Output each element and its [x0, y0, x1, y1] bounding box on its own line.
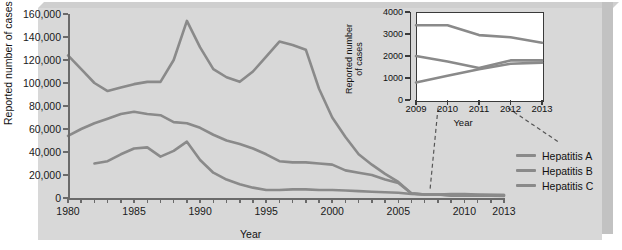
- legend-item-hepatitis-a[interactable]: Hepatitis A: [516, 148, 593, 163]
- inset-y-tick: [405, 33, 410, 34]
- figure-root: Reported number of cases Year 020,00040,…: [0, 0, 622, 250]
- legend-label-hepatitis-b: Hepatitis B: [542, 165, 593, 177]
- inset-x-tick-label: 2012: [500, 104, 521, 114]
- legend-item-hepatitis-b[interactable]: Hepatitis B: [516, 163, 593, 178]
- inset-y-tick: [405, 11, 410, 12]
- legend: Hepatitis A Hepatitis B Hepatitis C: [516, 148, 593, 193]
- legend-swatch-hepatitis-b: [516, 169, 536, 172]
- inset-y-tick-label: 1000: [372, 74, 403, 83]
- inset-y-tick: [405, 55, 410, 56]
- legend-item-hepatitis-c[interactable]: Hepatitis C: [516, 178, 593, 193]
- inset-x-tick-label: 2010: [437, 104, 458, 114]
- legend-label-hepatitis-a: Hepatitis A: [542, 150, 592, 162]
- inset-y-tick-label: 2000: [372, 52, 403, 61]
- inset-y-tick: [405, 77, 410, 78]
- inset-x-tick-label: 2009: [405, 104, 426, 114]
- inset-y-tick-label: 4000: [372, 8, 403, 17]
- inset-y-tick-label: 0: [372, 96, 403, 105]
- inset-x-tick-label: 2011: [469, 104, 489, 114]
- inset-x-tick-label: 2013: [531, 104, 552, 114]
- inset-connector-lines: [0, 0, 622, 250]
- legend-swatch-hepatitis-c: [516, 184, 536, 187]
- inset-y-tick: [405, 99, 410, 100]
- inset-y-tick-label: 3000: [372, 30, 403, 39]
- legend-swatch-hepatitis-a: [516, 154, 536, 157]
- legend-label-hepatitis-c: Hepatitis C: [542, 180, 593, 192]
